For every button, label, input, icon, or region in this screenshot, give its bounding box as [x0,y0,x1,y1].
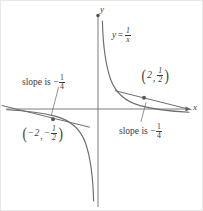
equation-label: y=1x [112,27,131,45]
point-negative-open-paren: ( [23,128,27,140]
slope-left-fraction: 14 [59,74,65,92]
point-positive-x-value: 2 [147,71,152,81]
slope-right-sign: − [150,126,155,136]
slope-right-denominator: 4 [156,131,162,140]
slope-left-denominator: 4 [59,82,65,91]
y-axis-label: y [100,5,104,14]
point-positive-fraction: 12 [157,67,163,85]
point-marker-2-half [142,96,146,100]
equation-equals-sign: = [116,30,124,40]
point-negative-comma: , [40,132,42,142]
point-negative-numerator: 1 [51,125,57,133]
slope-annotation-left: slope is −14 [22,74,65,92]
point-negative-close-paren: ) [59,128,63,140]
point-positive-open-paren: ( [142,70,146,82]
y-axis-top-dot-marker [96,14,99,17]
equation-numerator: 1 [125,27,131,35]
graph-canvas [1,1,203,211]
point-negative-x-sign: − [28,129,33,139]
slope-right-fraction: 14 [156,123,162,141]
point-label-negative: (−2,−12) [22,125,64,143]
point-label-positive: (2,12) [141,67,170,85]
figure-graph-reciprocal-function: y x y=1x (2,12) (−2,−12) slope is −14 sl… [0,0,203,211]
slope-right-numerator: 1 [156,123,162,131]
slope-right-text: slope is [119,126,148,136]
equation-fraction: 1x [125,27,131,45]
point-positive-close-paren: ) [165,70,169,82]
point-positive-comma: , [153,74,155,84]
slope-left-sign: − [53,77,58,87]
point-positive-numerator: 1 [157,67,163,75]
equation-denominator: x [125,35,130,44]
x-axis-label: x [193,103,197,112]
point-positive-denominator: 2 [157,75,163,84]
slope-left-numerator: 1 [59,74,65,82]
point-negative-y-sign: − [44,129,49,139]
leader-line-slope-right [141,103,146,122]
curve-reciprocal-branch-negative [7,110,94,201]
slope-annotation-right: slope is −14 [119,123,162,141]
point-negative-denominator: 2 [51,133,57,142]
slope-left-text: slope is [22,77,51,87]
point-negative-x-value: 2 [35,129,40,139]
point-negative-fraction: 12 [51,125,57,143]
point-marker-neg2-neghalf [51,117,55,121]
